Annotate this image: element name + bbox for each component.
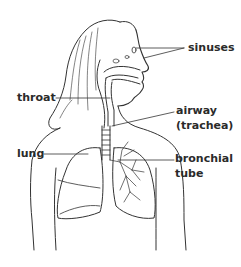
label-lung: lung (17, 148, 44, 160)
sinus-frontal (132, 47, 136, 53)
label-sinuses: sinuses (188, 42, 235, 54)
label-throat: throat (17, 92, 56, 104)
sinus-1 (125, 56, 129, 59)
label-trachea: (trachea) (176, 120, 233, 132)
lung-left (57, 148, 103, 219)
arm-left-inner (55, 168, 57, 250)
leader-sinuses-2 (144, 48, 184, 58)
trachea-rings (102, 130, 110, 155)
head-back (97, 60, 105, 128)
lung-right (113, 148, 156, 219)
label-bronchial: bronchial (175, 153, 233, 165)
sinus-2 (113, 59, 119, 63)
respiratory-diagram: sinuses throat airway (trachea) lung bro… (0, 0, 241, 267)
nasal-passage (104, 66, 140, 84)
lung-left-lobe (58, 180, 100, 214)
pharynx (105, 78, 114, 126)
bronchial-tree (110, 142, 144, 202)
hair-strands (60, 28, 98, 118)
neck-front (118, 106, 180, 158)
label-tube: tube (175, 168, 203, 180)
label-airway: airway (176, 105, 217, 117)
